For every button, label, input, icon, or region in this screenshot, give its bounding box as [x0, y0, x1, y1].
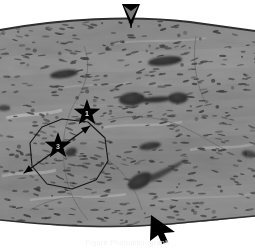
tissue-section: [0, 0, 255, 249]
star-marker-1-label: 1: [85, 110, 89, 117]
star-marker-3-label: 3: [56, 143, 60, 150]
figure-caption: Figure Photomicrograph: [0, 236, 255, 249]
tissue-noise-overlay: [0, 0, 255, 249]
micrograph-image: 13: [0, 0, 255, 249]
figure-root: 13 Figure Photomicrograph: [0, 0, 255, 249]
